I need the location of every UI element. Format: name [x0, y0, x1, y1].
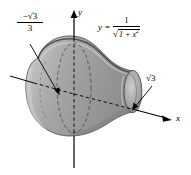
left-bound-numerator: −√3 [10, 12, 50, 21]
x-axis-label: x [176, 114, 180, 123]
equation-fraction: 1 √1 + x2 [113, 17, 140, 39]
left-bound-leader-line [30, 44, 57, 91]
figure-canvas: −√3 3 √3 y = 1 √1 + x2 y x [0, 0, 191, 175]
equation-denominator-body: 1 + x [119, 30, 136, 39]
x-axis-visible-segment [136, 110, 166, 118]
left-bound-label: −√3 3 [10, 12, 50, 33]
equation-denominator-exponent: 2 [136, 28, 139, 34]
y-axis-label: y [78, 8, 82, 17]
right-bound-leader-line [135, 86, 152, 107]
equation-fraction-bar [113, 26, 140, 27]
left-bound-denominator: 3 [10, 23, 50, 33]
equation-denominator: √1 + x2 [113, 28, 140, 39]
y-axis-arrowhead [71, 10, 78, 18]
right-bound-label: √3 [146, 74, 155, 83]
x-axis-arrowhead [162, 116, 172, 122]
z-axis-visible-segment [10, 76, 34, 83]
equation-numerator: 1 [113, 17, 140, 25]
equation-lhs: y [98, 23, 102, 32]
x-axis-hidden-segment [74, 94, 136, 110]
function-equation: y = 1 √1 + x2 [98, 17, 140, 39]
equation-equals-sign: = [104, 23, 111, 32]
z-axis-hidden-segment [34, 83, 74, 94]
